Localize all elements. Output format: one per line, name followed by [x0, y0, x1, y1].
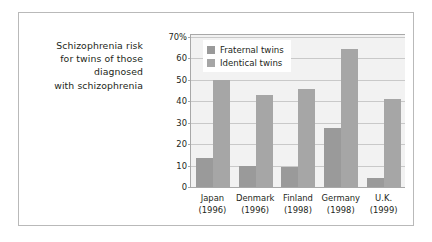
- y-axis-tick-label: 50: [176, 75, 187, 85]
- x-axis-label-country: Germany: [322, 193, 361, 203]
- y-axis-tick-mark: [188, 101, 191, 102]
- bar-germany-fraternal: [324, 128, 341, 187]
- x-axis-label-year: (1999): [362, 205, 405, 217]
- x-axis-label-year: (1996): [191, 205, 234, 217]
- x-axis-labels: Japan(1996)Denmark(1996)Finland(1998)Ger…: [191, 190, 405, 217]
- bar-uk-identical: [384, 99, 401, 187]
- y-axis-tick-label: 0: [182, 182, 187, 192]
- legend-label-identical: Identical twins: [220, 58, 282, 68]
- caption-line: with schizophrenia: [25, 79, 143, 92]
- y-axis-tick-mark: [188, 144, 191, 145]
- y-axis-tick-mark: [188, 58, 191, 59]
- caption-line: for twins of those: [25, 52, 143, 65]
- y-axis-tick-label: 40: [176, 96, 187, 106]
- x-axis-label: Denmark(1996): [234, 190, 277, 217]
- bar-finland-fraternal: [281, 167, 298, 187]
- y-axis-tick-label: 20: [176, 139, 187, 149]
- y-axis-tick-label: 60: [176, 53, 187, 63]
- figure-caption: Schizophrenia risk for twins of those di…: [25, 39, 143, 92]
- bar-japan-fraternal: [196, 158, 213, 187]
- bar-denmark-identical: [256, 95, 273, 187]
- legend-item-fraternal: Fraternal twins: [207, 43, 284, 56]
- x-axis-label-year: (1998): [277, 205, 320, 217]
- bar-finland-identical: [298, 89, 315, 187]
- figure-frame: Schizophrenia risk for twins of those di…: [18, 12, 414, 226]
- y-axis-tick-mark: [188, 187, 191, 188]
- bar-denmark-fraternal: [239, 166, 256, 187]
- y-axis-tick-mark: [188, 37, 191, 38]
- x-axis-label-country: U.K.: [375, 193, 392, 203]
- x-axis-label-year: (1996): [234, 205, 277, 217]
- legend-item-identical: Identical twins: [207, 56, 284, 69]
- x-axis-label-country: Japan: [201, 193, 224, 203]
- x-axis-label-country: Denmark: [236, 193, 275, 203]
- bar-group: [362, 35, 405, 187]
- x-axis-label-country: Finland: [283, 193, 313, 203]
- x-axis-label: U.K.(1999): [362, 190, 405, 217]
- bar-japan-identical: [213, 80, 230, 187]
- bar-group: [320, 35, 363, 187]
- chart-legend: Fraternal twins Identical twins: [203, 40, 291, 72]
- y-axis-tick-mark: [188, 123, 191, 124]
- bar-chart: 010203040506070% Fraternal twins Identic…: [163, 31, 407, 217]
- y-axis-tick-label: 30: [176, 118, 187, 128]
- caption-line: diagnosed: [25, 65, 143, 78]
- x-axis-label-year: (1998): [319, 205, 362, 217]
- x-axis-label: Japan(1996): [191, 190, 234, 217]
- y-axis-tick-label: 10: [176, 161, 187, 171]
- x-axis-label: Finland(1998): [277, 190, 320, 217]
- y-axis-tick-mark: [188, 80, 191, 81]
- bar-germany-identical: [341, 49, 358, 187]
- caption-line: Schizophrenia risk: [25, 39, 143, 52]
- legend-label-fraternal: Fraternal twins: [220, 45, 284, 55]
- x-axis-label: Germany(1998): [319, 190, 362, 217]
- legend-swatch-fraternal: [207, 46, 215, 54]
- legend-swatch-identical: [207, 59, 215, 67]
- y-axis-tick-label: 70%: [168, 32, 187, 42]
- bar-uk-fraternal: [367, 178, 384, 187]
- y-axis-tick-mark: [188, 166, 191, 167]
